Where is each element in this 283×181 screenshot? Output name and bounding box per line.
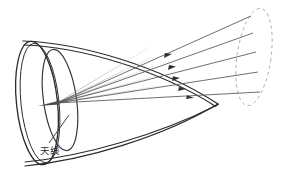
near-field-fan-group [38, 47, 158, 106]
beam-ray-2-line [57, 33, 253, 103]
beam-rays-group [57, 16, 260, 103]
radome-beam-diagram: 天线 [0, 0, 283, 181]
beam-ray-3-line [57, 52, 256, 103]
beam-ray-2 [57, 33, 253, 103]
antenna-label: 天线 [40, 145, 60, 156]
beam-ray-1-line [57, 16, 251, 103]
diagram-canvas: 天线 [0, 0, 283, 181]
focal-point-marker [38, 101, 60, 107]
beam-ray-1-arrowhead [164, 53, 172, 58]
antenna-label-group: 天线 [40, 115, 69, 156]
beam-ray-3 [57, 52, 256, 103]
beam-ray-2-arrowhead [168, 65, 176, 70]
beam-ray-1 [57, 16, 251, 103]
